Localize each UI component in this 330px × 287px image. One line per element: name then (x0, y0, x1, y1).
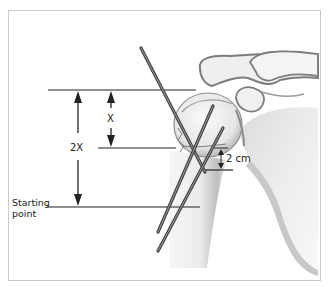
label-x: X (107, 113, 114, 124)
scapular-spine (262, 92, 304, 96)
label-two-x: 2X (70, 142, 83, 153)
coracoid (236, 87, 264, 111)
scapula (240, 107, 318, 270)
label-starting-point-line1: Starting (12, 197, 50, 208)
label-two-cm: 2 cm (226, 153, 251, 164)
humeral-shaft (169, 150, 227, 268)
label-starting-point-line2: point (12, 208, 37, 219)
shoulder-pinning-diagram: X 2X Starting point 2 cm (0, 0, 330, 287)
humeral-head (174, 93, 242, 157)
